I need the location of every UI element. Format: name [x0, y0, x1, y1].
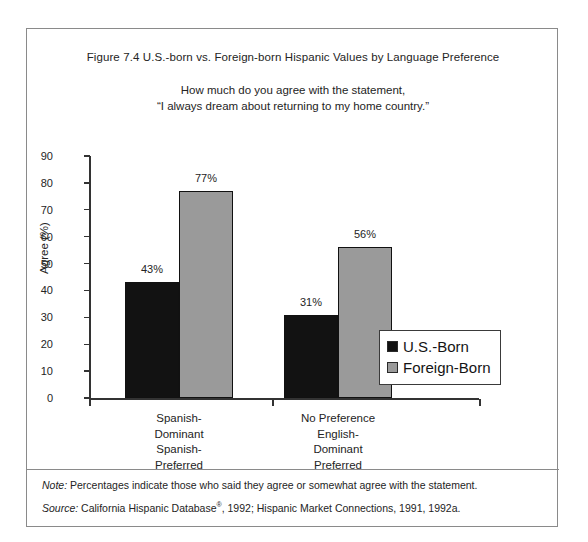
legend-item-2: Foreign-Born: [387, 357, 491, 378]
y-tick-label: 60: [27, 231, 53, 243]
chart-plot-area: Agree (%) 0102030405060708090 43%77%31%5…: [27, 147, 559, 452]
y-tick-label: 30: [27, 311, 53, 323]
x-category-label-line: Preferred: [301, 458, 375, 474]
y-tick-label: 90: [27, 150, 53, 162]
y-tick-label: 20: [27, 338, 53, 350]
legend-item-1: U.S.-Born: [387, 336, 491, 357]
bar-value-label: 56%: [354, 228, 376, 240]
footer-divider: [27, 469, 559, 470]
x-category-label-line: No Preference: [301, 411, 375, 427]
legend-label: U.S.-Born: [403, 338, 469, 355]
source-line: Source: California Hispanic Database®, 1…: [42, 501, 550, 514]
x-category-label-line: Spanish-: [154, 411, 203, 427]
x-category-label: Spanish-DominantSpanish-Preferred: [154, 411, 203, 473]
x-tick-mark: [89, 399, 91, 406]
legend-label: Foreign-Born: [403, 359, 491, 376]
figure-frame: Figure 7.4 U.S.-born vs. Foreign-born Hi…: [26, 28, 558, 527]
subtitle-line-1: How much do you agree with the statement…: [27, 82, 559, 98]
x-category-label-line: Spanish-: [154, 442, 203, 458]
note-label: Note:: [42, 479, 67, 491]
bar-foreign-born-group-1: [179, 191, 233, 398]
source-label: Source:: [42, 502, 78, 514]
bar-value-label: 31%: [300, 296, 322, 308]
source-text-a: California Hispanic Database: [78, 502, 216, 514]
x-category-label-line: Dominant: [154, 427, 203, 443]
source-text-b: , 1992; Hispanic Market Connections, 199…: [222, 502, 461, 514]
subtitle-line-2: “I always dream about returning to my ho…: [27, 98, 559, 114]
y-tick-label: 10: [27, 365, 53, 377]
y-tick-label: 40: [27, 284, 53, 296]
bar-value-label: 77%: [195, 172, 217, 184]
y-tick-label: 80: [27, 177, 53, 189]
bar-u-s-born-group-2: [284, 315, 338, 398]
legend-swatch-icon: [387, 362, 398, 373]
x-category-label-line: Dominant: [301, 442, 375, 458]
figure-subtitle: How much do you agree with the statement…: [27, 82, 559, 114]
x-tick-mark: [272, 399, 274, 406]
y-tick-label: 50: [27, 258, 53, 270]
note-text: Percentages indicate those who said they…: [67, 479, 477, 491]
x-axis-line: [89, 398, 479, 400]
chart-legend: U.S.-BornForeign-Born: [379, 330, 501, 385]
bar-value-label: 43%: [141, 263, 163, 275]
y-axis-ticks: 0102030405060708090: [27, 147, 89, 409]
y-tick-label: 0: [27, 392, 53, 404]
legend-swatch-icon: [387, 341, 398, 352]
y-tick-label: 70: [27, 204, 53, 216]
figure-title: Figure 7.4 U.S.-born vs. Foreign-born Hi…: [27, 51, 559, 63]
note-line: Note: Percentages indicate those who sai…: [42, 479, 550, 491]
x-category-label-line: Preferred: [154, 458, 203, 474]
y-axis-line: [89, 156, 91, 400]
x-tick-mark: [479, 399, 481, 406]
x-category-label-line: English-: [301, 427, 375, 443]
x-category-label: No PreferenceEnglish-DominantPreferred: [301, 411, 375, 473]
bar-u-s-born-group-1: [125, 282, 179, 398]
